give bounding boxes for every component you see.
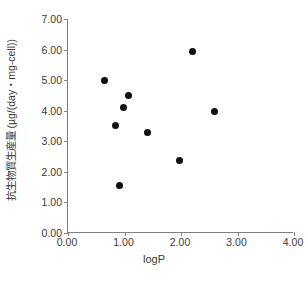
x-tick-label: 2.00 [170,236,190,248]
figure-caption [0,274,308,286]
scatter-chart-figure: 抗生物質生産量 (µg/(day・mg-cell)) 0.001.002.003… [0,0,308,286]
x-tick-label: 4.00 [283,236,303,248]
x-axis-tick-labels: 0.001.002.003.004.00 [0,0,308,286]
x-axis-title: logP [0,253,308,265]
x-tick-label: 1.00 [113,236,133,248]
x-tick-label: 3.00 [226,236,246,248]
x-tick-label: 0.00 [57,236,77,248]
